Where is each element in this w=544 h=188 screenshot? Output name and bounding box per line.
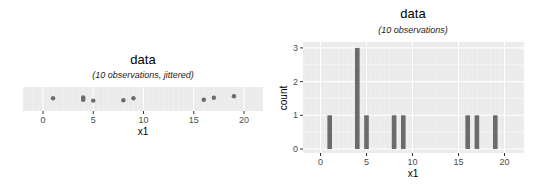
svg-text:0: 0 bbox=[293, 144, 298, 154]
jitter-chart: data (10 observations, jittered) 0510152… bbox=[23, 52, 264, 137]
chart-subtitle: (10 observations, jittered) bbox=[92, 70, 194, 80]
bar bbox=[475, 115, 480, 149]
data-point bbox=[81, 98, 85, 102]
svg-text:3: 3 bbox=[293, 43, 298, 53]
chart-title: data bbox=[130, 52, 156, 67]
chart-title: data bbox=[400, 6, 426, 21]
data-point bbox=[232, 94, 236, 98]
bar bbox=[465, 115, 470, 149]
bar bbox=[364, 115, 369, 149]
bar bbox=[401, 115, 406, 149]
histogram-chart: data (10 observations) 051015200123 x1 c… bbox=[278, 6, 524, 179]
svg-text:15: 15 bbox=[453, 157, 463, 167]
svg-text:2: 2 bbox=[293, 77, 298, 87]
figure: data (10 observations, jittered) 0510152… bbox=[0, 0, 544, 188]
x-axis-label: x1 bbox=[408, 168, 419, 179]
data-point bbox=[202, 98, 206, 102]
svg-text:5: 5 bbox=[364, 157, 369, 167]
svg-text:20: 20 bbox=[499, 157, 509, 167]
data-point bbox=[91, 98, 95, 102]
data-point bbox=[51, 96, 55, 100]
bar bbox=[327, 115, 332, 149]
chart-subtitle: (10 observations) bbox=[378, 25, 448, 35]
x-axis: 05101520 bbox=[40, 111, 249, 125]
svg-text:10: 10 bbox=[407, 157, 417, 167]
svg-text:15: 15 bbox=[189, 115, 199, 125]
data-point bbox=[131, 96, 135, 100]
svg-text:0: 0 bbox=[40, 115, 45, 125]
svg-text:5: 5 bbox=[91, 115, 96, 125]
y-axis-label: count bbox=[278, 86, 289, 111]
svg-text:10: 10 bbox=[138, 115, 148, 125]
svg-text:0: 0 bbox=[318, 157, 323, 167]
bar bbox=[392, 115, 397, 149]
data-point bbox=[121, 98, 125, 102]
x-axis-label: x1 bbox=[138, 126, 149, 137]
data-point bbox=[212, 96, 216, 100]
svg-text:1: 1 bbox=[293, 110, 298, 120]
bar bbox=[493, 115, 498, 149]
bar bbox=[355, 48, 360, 149]
svg-text:20: 20 bbox=[239, 115, 249, 125]
